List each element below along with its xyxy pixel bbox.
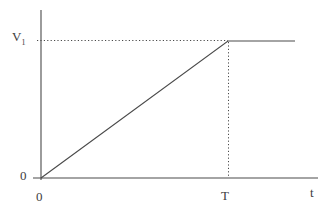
y-axis-level-label: V1 xyxy=(12,30,25,47)
x-axis-breakpoint-label: T xyxy=(221,189,229,202)
y-axis-level-subscript: 1 xyxy=(21,38,25,47)
y-axis-level-letter: V xyxy=(12,29,21,44)
x-axis-name-label: t xyxy=(310,186,314,199)
x-axis-origin-label: 0 xyxy=(36,190,43,203)
y-axis-origin-label: 0 xyxy=(20,169,27,182)
ramp-signal-figure: V1 0 0 T t xyxy=(0,0,327,214)
plot-canvas xyxy=(0,0,327,214)
signal-curve xyxy=(41,41,295,178)
